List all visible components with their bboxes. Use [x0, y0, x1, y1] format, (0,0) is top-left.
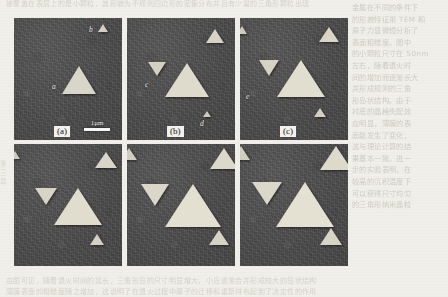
- feature-label-a: a: [52, 83, 56, 91]
- crystal-triangle-upper-right-b: [206, 29, 224, 43]
- crystal-triangle-inverted-c: [148, 62, 166, 76]
- panel-tag-c: (c): [280, 126, 296, 137]
- crystal-triangle-inverted-d: [35, 188, 57, 205]
- feature-label-b: b: [89, 26, 93, 34]
- crystal-triangle-edge-e: [127, 148, 137, 160]
- crystal-triangle-edge-c: [240, 26, 247, 34]
- scale-bar: 1μm: [80, 119, 114, 131]
- crystal-triangle-inverted-e2: [141, 184, 169, 206]
- micrograph-panel-e: (e): [127, 144, 235, 266]
- crystal-triangle-lower-right-f: [320, 228, 342, 245]
- feature-label-e: e: [246, 93, 249, 101]
- crystal-triangle-inverted-e: [259, 60, 279, 76]
- crystal-triangle-upper-right-e: [210, 148, 235, 169]
- crystal-triangle-small-d: [203, 111, 211, 117]
- crystal-triangle-large-b: [165, 63, 209, 97]
- panel-tag-b: (b): [167, 126, 184, 137]
- feature-label-c: c: [145, 81, 148, 89]
- crystal-triangle-large-d: [54, 188, 102, 225]
- crystal-triangle-large-f: [276, 182, 334, 227]
- crystal-triangle-lower-right-e: [209, 230, 229, 245]
- crystal-triangle-upper-right-d: [95, 152, 117, 168]
- micrograph-panel-a: a b 1μm (a): [14, 18, 122, 140]
- micrograph-panel-f: (f): [240, 144, 348, 266]
- crystal-triangle-lower-right-d: [90, 234, 104, 245]
- crystal-triangle-inverted-f: [252, 182, 282, 205]
- crystal-triangle-small-lower-c: [314, 108, 326, 117]
- feature-label-d: d: [200, 120, 204, 128]
- micrograph-panel-c: e (c): [240, 18, 348, 140]
- micrograph-panel-b: c d (b): [127, 18, 235, 140]
- crystal-triangle-large-a: [62, 66, 96, 94]
- afm-micrograph-figure: a b 1μm (a) c d (b) e (c) (d): [0, 0, 448, 297]
- crystal-triangle-edge-f: [240, 146, 250, 160]
- scale-bar-label: 1μm: [80, 119, 114, 127]
- crystal-triangle-upper-right-c: [319, 27, 339, 42]
- crystal-triangle-edge-d: [14, 151, 20, 159]
- crystal-triangle-small-b: [98, 24, 108, 32]
- scale-bar-line: [84, 128, 110, 131]
- crystal-triangle-large-c: [277, 60, 325, 97]
- crystal-triangle-large-e: [165, 184, 221, 227]
- micrograph-panel-d: (d): [14, 144, 122, 266]
- crystal-triangle-upper-right-f: [320, 146, 348, 170]
- panel-tag-a: (a): [54, 126, 70, 137]
